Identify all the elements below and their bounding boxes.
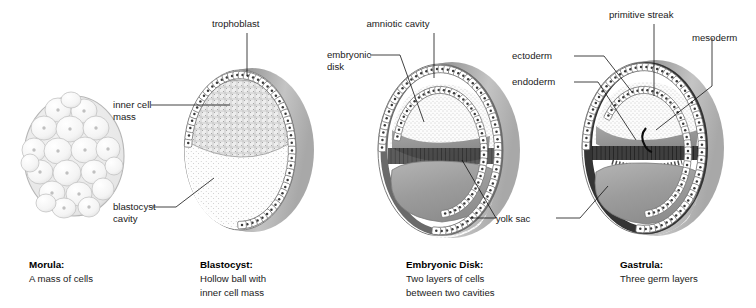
cell-nucleus (288, 127, 291, 130)
label-primitive-streak: primitive streak (609, 9, 674, 20)
label-endoderm: endoderm (512, 76, 555, 87)
cell-nucleus (211, 85, 214, 88)
caption-embryonic-line1: Two layers of cells (406, 273, 485, 284)
cell-nucleus (203, 95, 206, 98)
cell-nucleus (585, 137, 588, 140)
cell-nucleus (266, 85, 269, 88)
cell-nucleus (189, 127, 192, 130)
cell-nucleus (497, 146, 500, 149)
cell-nucleus (669, 101, 672, 104)
cell-nucleus (398, 128, 401, 131)
cell-nucleus (487, 103, 490, 106)
cell-nucleus (680, 183, 683, 186)
cell-nucleus (266, 213, 269, 216)
cell-nucleus (477, 181, 480, 184)
cell-nucleus (291, 142, 294, 145)
cell-nucleus (595, 102, 598, 105)
cell-nucleus (701, 144, 704, 147)
cell-nucleus (690, 193, 693, 196)
cell-nucleus (413, 100, 416, 103)
cell-nucleus (683, 205, 686, 208)
cell-nucleus (274, 204, 277, 207)
cell-nucleus (281, 192, 284, 195)
cell-nucleus (482, 161, 485, 164)
cell-nucleus (685, 136, 688, 139)
caption-morula-title: Morula: (29, 259, 64, 270)
cell-nucleus (470, 107, 473, 110)
cell-nucleus (466, 102, 469, 105)
cell-nucleus (406, 82, 409, 85)
cell-nucleus (618, 100, 621, 103)
cell-nucleus (271, 90, 274, 93)
cell-nucleus (687, 95, 690, 98)
cell-nucleus (466, 220, 469, 223)
cell-nucleus (262, 81, 265, 84)
cell-nucleus (282, 106, 285, 109)
cell-nucleus (492, 116, 495, 119)
cell-nucleus (475, 212, 478, 215)
cell-nucleus (482, 139, 485, 142)
cell-nucleus (418, 96, 421, 99)
panel-morula (21, 92, 124, 218)
cell-nucleus (275, 94, 278, 97)
cell-nucleus (495, 131, 498, 134)
cell-nucleus (694, 108, 697, 111)
cell-nucleus (462, 75, 465, 78)
cell-nucleus (483, 97, 486, 100)
caption-embryonic-title: Embryonic Disk: (406, 259, 483, 270)
cell-nucleus (481, 132, 484, 135)
cell-nucleus (384, 124, 387, 127)
cell-nucleus (474, 113, 477, 116)
cell-nucleus (391, 104, 394, 107)
cell-nucleus (270, 208, 273, 211)
cell-nucleus (463, 202, 466, 205)
cell-nucleus (193, 113, 196, 116)
caption-blastocyst-title: Blastocyst: (200, 259, 253, 270)
caption-gastrula-title: Gastrula: (620, 259, 663, 270)
cell-nucleus (686, 164, 689, 167)
cell-nucleus (682, 123, 685, 126)
cell-nucleus (605, 85, 608, 88)
cell-nucleus (196, 106, 199, 109)
cell-nucleus (639, 228, 642, 231)
cell-nucleus (284, 113, 287, 116)
cell-nucleus (474, 187, 477, 190)
cell-nucleus (585, 144, 588, 147)
cell-nucleus (486, 195, 489, 198)
cell-nucleus (286, 179, 289, 182)
cell-nucleus (435, 230, 438, 233)
caption-embryonic-line2: between two cavities (406, 287, 495, 298)
cell-nucleus (397, 92, 400, 95)
cell-nucleus (400, 122, 403, 125)
cell-nucleus (458, 95, 461, 98)
cell-nucleus (403, 116, 406, 119)
cell-nucleus (496, 138, 499, 141)
cell-nucleus (207, 90, 210, 93)
cell-nucleus (462, 98, 465, 101)
cell-nucleus (489, 189, 492, 192)
cell-nucleus (409, 105, 412, 108)
cell-nucleus (586, 129, 589, 132)
cell-nucleus (683, 177, 686, 180)
cell-nucleus (592, 108, 595, 111)
cell-nucleus (610, 109, 613, 112)
cell-nucleus (665, 97, 668, 100)
cell-nucleus (479, 125, 482, 128)
cell-nucleus (614, 104, 617, 107)
cell-nucleus (188, 134, 191, 137)
label-inner-cell-mass-line2: mass (113, 111, 136, 122)
caption-gastrula-line1: Three germ layers (620, 273, 698, 284)
cell-nucleus (494, 123, 497, 126)
cell-nucleus (679, 210, 682, 213)
cell-nucleus (401, 87, 404, 90)
cell-nucleus (670, 218, 673, 221)
cell-nucleus (699, 129, 702, 132)
cell-nucleus (476, 86, 479, 89)
cell-nucleus (495, 168, 498, 171)
cell-nucleus (241, 224, 244, 227)
cell-nucleus (471, 193, 474, 196)
cell-nucleus (677, 189, 680, 192)
cell-nucleus (675, 214, 678, 217)
cell-nucleus (607, 114, 610, 117)
cell-nucleus (684, 90, 687, 93)
